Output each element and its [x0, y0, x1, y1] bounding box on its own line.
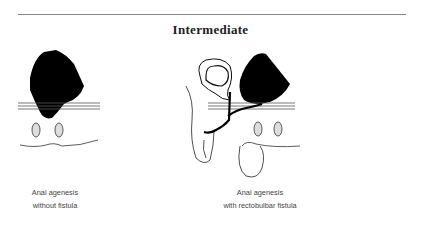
- left-diagram: [18, 50, 100, 147]
- sphincter-left-1: [32, 123, 40, 137]
- scrotum: [239, 146, 264, 177]
- perineum-right: [242, 142, 300, 146]
- bladder-inner: [206, 66, 228, 86]
- right-diagram: [186, 53, 300, 177]
- rectum-pouch-left: [30, 50, 84, 118]
- caption-right: Anal agenesis with rectobulbar fistula: [196, 186, 325, 212]
- sphincter-right-1: [254, 122, 262, 136]
- caption-left-line2: without fistula: [23, 199, 87, 212]
- urethra-penis: [186, 86, 214, 163]
- penis-inner: [203, 140, 206, 158]
- caption-right-line2: with rectobulbar fistula: [196, 199, 325, 212]
- sphincter-right-2: [274, 122, 282, 136]
- rectum-pouch-right: [240, 53, 291, 104]
- sphincter-left-2: [55, 123, 63, 137]
- bladder-outer: [199, 59, 232, 100]
- caption-right-line1: Anal agenesis: [196, 186, 325, 199]
- caption-left-line1: Anal agenesis: [23, 186, 87, 199]
- caption-left: Anal agenesis without fistula: [23, 186, 87, 212]
- perineum-left: [20, 140, 98, 147]
